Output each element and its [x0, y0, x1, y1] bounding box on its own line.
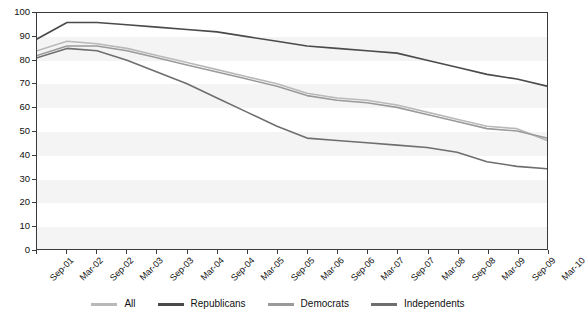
- y-tick-mark: [32, 155, 36, 156]
- x-tick-label: Sep-06: [350, 256, 377, 283]
- x-tick-label: Mar-05: [259, 256, 286, 283]
- x-tick-label: Sep-08: [470, 256, 497, 283]
- x-tick-label: Sep-05: [289, 256, 316, 283]
- x-tick-label: Sep-01: [49, 256, 76, 283]
- legend-label: Democrats: [301, 299, 349, 309]
- y-tick-mark: [32, 83, 36, 84]
- x-tick-label: Mar-02: [78, 256, 105, 283]
- series-lines: [37, 13, 547, 249]
- x-tick-mark: [518, 250, 519, 254]
- x-tick-mark: [36, 250, 37, 254]
- y-tick-mark: [32, 131, 36, 132]
- x-tick-label: Mar-09: [500, 256, 527, 283]
- y-tick-label: 20: [0, 197, 30, 207]
- x-tick-mark: [548, 250, 549, 254]
- x-tick-mark: [428, 250, 429, 254]
- y-tick-label: 0: [0, 245, 30, 255]
- legend-swatch-icon: [158, 303, 184, 306]
- y-tick-mark: [32, 107, 36, 108]
- legend-item-democrats[interactable]: Democrats: [268, 299, 349, 309]
- chart-legend: AllRepublicansDemocratsIndependents: [0, 299, 556, 309]
- y-tick-label: 40: [0, 150, 30, 160]
- series-line-republicans: [37, 22, 547, 86]
- legend-label: Republicans: [191, 299, 246, 309]
- y-tick-mark: [32, 226, 36, 227]
- x-tick-mark: [126, 250, 127, 254]
- y-tick-label: 60: [0, 102, 30, 112]
- x-tick-mark: [367, 250, 368, 254]
- x-tick-label: Sep-02: [109, 256, 136, 283]
- x-tick-mark: [458, 250, 459, 254]
- x-tick-label: Mar-07: [380, 256, 407, 283]
- x-tick-mark: [156, 250, 157, 254]
- legend-swatch-icon: [268, 303, 294, 306]
- y-tick-mark: [32, 36, 36, 37]
- x-tick-label: Mar-08: [440, 256, 467, 283]
- x-tick-label: Sep-03: [169, 256, 196, 283]
- y-tick-mark: [32, 202, 36, 203]
- legend-label: Independents: [404, 299, 465, 309]
- legend-swatch-icon: [91, 303, 117, 306]
- x-tick-label: Mar-06: [319, 256, 346, 283]
- x-tick-mark: [277, 250, 278, 254]
- x-tick-label: Mar-03: [139, 256, 166, 283]
- x-tick-mark: [337, 250, 338, 254]
- legend-item-republicans[interactable]: Republicans: [158, 299, 246, 309]
- series-line-independents: [37, 48, 547, 168]
- y-tick-mark: [32, 179, 36, 180]
- y-tick-label: 80: [0, 55, 30, 65]
- legend-item-all[interactable]: All: [91, 299, 135, 309]
- x-tick-mark: [488, 250, 489, 254]
- x-tick-mark: [187, 250, 188, 254]
- x-tick-mark: [96, 250, 97, 254]
- series-line-democrats: [37, 46, 547, 138]
- x-tick-label: Mar-10: [560, 256, 587, 283]
- x-tick-label: Sep-09: [530, 256, 557, 283]
- x-tick-mark: [217, 250, 218, 254]
- y-tick-label: 50: [0, 126, 30, 136]
- x-tick-mark: [307, 250, 308, 254]
- y-tick-label: 100: [0, 7, 30, 17]
- y-tick-label: 70: [0, 78, 30, 88]
- legend-swatch-icon: [371, 303, 397, 306]
- y-tick-label: 30: [0, 174, 30, 184]
- y-tick-label: 10: [0, 221, 30, 231]
- x-tick-mark: [397, 250, 398, 254]
- x-tick-label: Sep-04: [229, 256, 256, 283]
- x-tick-label: Mar-04: [199, 256, 226, 283]
- x-tick-label: Sep-07: [410, 256, 437, 283]
- legend-item-independents[interactable]: Independents: [371, 299, 465, 309]
- legend-label: All: [124, 299, 135, 309]
- plot-area: [36, 12, 548, 250]
- y-tick-label: 90: [0, 31, 30, 41]
- x-tick-mark: [66, 250, 67, 254]
- y-tick-mark: [32, 60, 36, 61]
- x-tick-mark: [247, 250, 248, 254]
- y-tick-mark: [32, 12, 36, 13]
